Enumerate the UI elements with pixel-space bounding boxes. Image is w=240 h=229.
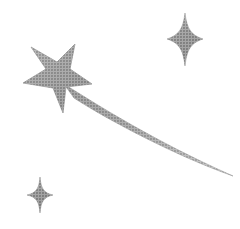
- shooting-star-illustration: [0, 0, 240, 229]
- image-canvas: Shooting Star: [0, 0, 240, 229]
